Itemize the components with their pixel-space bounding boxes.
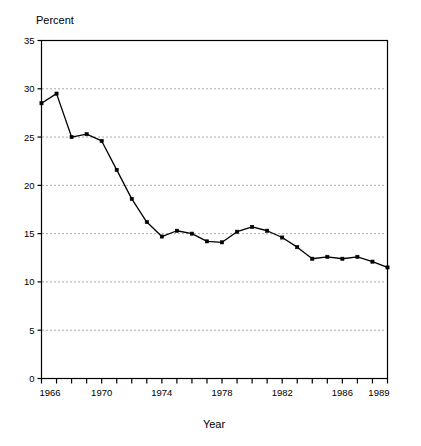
x-tick-label: 1970 xyxy=(91,387,112,398)
x-tick-label: 1978 xyxy=(211,387,232,398)
data-point-marker xyxy=(190,232,193,235)
y-tick-label: 25 xyxy=(24,132,35,143)
data-point-marker xyxy=(100,139,103,142)
y-tick-label: 20 xyxy=(24,180,35,191)
data-point-marker xyxy=(175,229,178,232)
data-point-marker xyxy=(371,260,374,263)
x-axis-title: Year xyxy=(203,418,226,430)
data-point-marker xyxy=(311,257,314,260)
data-point-marker xyxy=(251,225,254,228)
data-point-marker xyxy=(115,168,118,171)
data-point-marker xyxy=(70,135,73,138)
chart-container: 05101520253035 1966197019741978198219861… xyxy=(0,0,421,446)
data-point-marker xyxy=(235,230,238,233)
x-tick-label: 1966 xyxy=(40,387,61,398)
data-point-marker xyxy=(220,241,223,244)
y-tick-label: 35 xyxy=(24,35,35,46)
data-point-marker xyxy=(55,92,58,95)
data-point-marker xyxy=(356,255,359,258)
data-point-marker xyxy=(85,133,88,136)
data-point-marker xyxy=(386,266,389,269)
x-tick-label: 1974 xyxy=(151,387,172,398)
line-chart: 05101520253035 1966197019741978198219861… xyxy=(0,0,421,446)
y-tick-label: 15 xyxy=(24,228,35,239)
data-point-marker xyxy=(341,257,344,260)
y-tick-label: 0 xyxy=(29,373,34,384)
data-point-marker xyxy=(266,229,269,232)
data-point-marker xyxy=(145,220,148,223)
y-tick-label: 30 xyxy=(24,83,35,94)
x-tick-label: 1982 xyxy=(272,387,293,398)
y-tick-label: 10 xyxy=(24,276,35,287)
x-tick-label: 1986 xyxy=(332,387,353,398)
data-point-marker xyxy=(296,246,299,249)
data-point-marker xyxy=(160,235,163,238)
data-point-marker xyxy=(326,255,329,258)
x-tick-label: 1989 xyxy=(368,387,389,398)
data-point-marker xyxy=(205,240,208,243)
data-point-marker xyxy=(130,197,133,200)
y-tick-label: 5 xyxy=(29,325,34,336)
data-point-marker xyxy=(281,236,284,239)
y-axis-label: Percent xyxy=(36,14,74,26)
data-point-marker xyxy=(40,102,43,105)
